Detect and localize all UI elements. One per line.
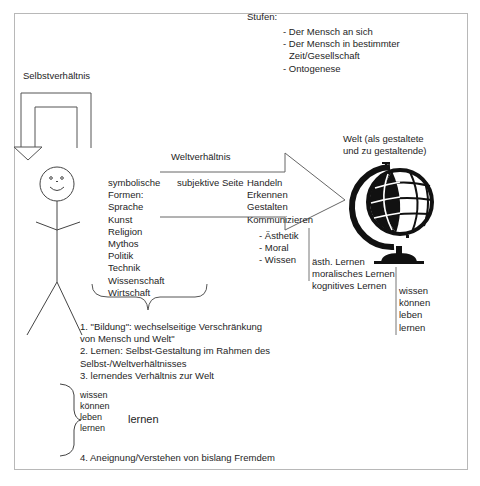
thesis-line: Selbst-/Weltverhältnisses — [80, 358, 270, 370]
self-relation-loop-arrow — [14, 93, 91, 160]
activity-item: Kommunizieren — [247, 214, 313, 226]
activity-item: Gestalten — [247, 201, 313, 213]
stage-item: - Ontogenese — [283, 63, 400, 75]
symbolic-form-item: Religion — [108, 226, 165, 238]
symbolic-form-item: Formen: — [108, 189, 165, 201]
symbolic-form-item: Technik — [108, 262, 165, 274]
theses-list: 1. "Bildung": wechselseitige Verschränku… — [80, 321, 270, 382]
subjective-side-label: subjektive Seite — [177, 177, 244, 189]
domain-item: - Ästhetik — [259, 230, 299, 242]
symbolic-form-item: Mythos — [108, 238, 165, 250]
world-label: Welt (als gestaltete und zu gestaltende) — [343, 133, 426, 157]
bracket-result-label: lernen — [128, 413, 159, 425]
learning-mode-item: leben — [80, 412, 110, 423]
thesis-line: von Mensch und Welt" — [80, 333, 270, 345]
stages-list: - Der Mensch an sich - Der Mensch in bes… — [283, 26, 400, 75]
thesis-line: 3. lernendes Verhältnis zur Welt — [80, 370, 270, 382]
domain-item: - Moral — [259, 242, 299, 254]
thesis-4: 4. Aneignung/Verstehen von bislang Fremd… — [80, 452, 275, 464]
globe-icon — [352, 162, 432, 264]
symbolic-form-item: Politik — [108, 250, 165, 262]
symbolic-form-item: symbolische — [108, 177, 165, 189]
stick-figure-icon — [27, 167, 82, 335]
stage-item: - Der Mensch an sich — [283, 26, 400, 38]
learning-modes-bracket-list: wissen können leben lernen — [80, 390, 110, 434]
learning-modes-right-list: wissen können leben lernen — [399, 285, 430, 334]
symbolic-form-item: Kunst — [108, 214, 165, 226]
learning-mode-item: wissen — [399, 285, 430, 297]
learning-mode-item: können — [80, 401, 110, 412]
stage-item: - Der Mensch in bestimmter — [283, 38, 400, 50]
learning-type-item: kognitives Lernen — [312, 280, 395, 292]
world-label-line2: und zu gestaltende) — [343, 145, 426, 157]
symbolic-form-item: Wissenschaft — [108, 275, 165, 287]
activity-item: Handeln — [247, 177, 313, 189]
self-relation-label: Selbstverhältnis — [23, 70, 90, 82]
stage-item: Zeit/Gesellschaft — [283, 50, 400, 62]
world-relation-label: Weltverhältnis — [171, 151, 231, 163]
thesis-line: 2. Lernen: Selbst-Gestaltung im Rahmen d… — [80, 345, 270, 357]
learning-mode-item: wissen — [80, 390, 110, 401]
symbolic-form-item: Sprache — [108, 201, 165, 213]
learning-type-item: moralisches Lernen — [312, 268, 395, 280]
activities-list: Handeln Erkennen Gestalten Kommunizieren — [247, 177, 313, 226]
activity-item: Erkennen — [247, 189, 313, 201]
learning-modes-brace — [60, 384, 81, 456]
world-label-line1: Welt (als gestaltete — [343, 133, 426, 145]
learning-mode-item: lernen — [399, 322, 430, 334]
learning-types-list: ästh. Lernen moralisches Lernen kognitiv… — [312, 256, 395, 293]
learning-mode-item: können — [399, 297, 430, 309]
stages-title: Stufen: — [247, 11, 277, 23]
symbolic-forms-list: symbolische Formen: Sprache Kunst Religi… — [108, 177, 165, 299]
learning-mode-item: leben — [399, 309, 430, 321]
symbolic-form-item: Wirtschaft — [108, 287, 165, 299]
thesis-line: 1. "Bildung": wechselseitige Verschränku… — [80, 321, 270, 333]
domain-item: - Wissen — [259, 254, 299, 266]
learning-type-item: ästh. Lernen — [312, 256, 395, 268]
domains-list: - Ästhetik - Moral - Wissen — [259, 230, 299, 267]
learning-mode-item: lernen — [80, 423, 110, 434]
